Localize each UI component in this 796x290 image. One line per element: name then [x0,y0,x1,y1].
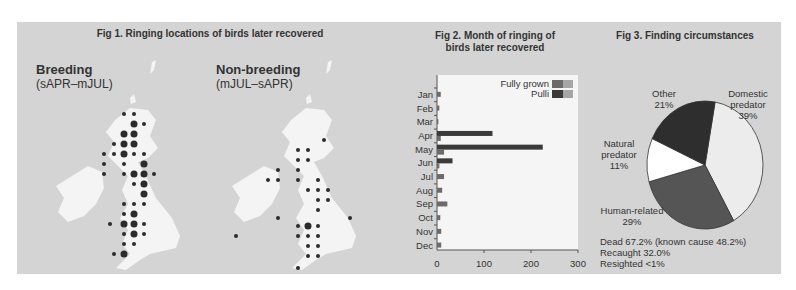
bar-pulli [437,131,492,136]
label-natural: Naturalpredator11% [594,138,644,171]
fig3-title: Fig 3. Finding circumstances [610,30,760,42]
xtick-0: 0 [434,258,439,269]
label-human: Human-related29% [592,205,672,227]
summary-dead: Dead 67.2% (known cause 48.2%) [600,236,746,247]
label-domestic: Domesticpredator39% [718,88,778,121]
summary-recaught: Recaught 32.0% [600,247,746,258]
bar-fully-grown [437,150,444,155]
fig1-title: Fig 1. Ringing locations of birds later … [80,28,340,40]
month-label: Jun [418,157,433,168]
nonbreeding-map [206,58,376,278]
bar-fully-grown [437,92,441,97]
month-label: Aug [416,185,433,196]
bar-fully-grown [437,163,439,168]
bar-fully-grown [437,106,439,111]
month-label: Nov [416,226,433,237]
month-label: Mar [417,116,433,127]
month-label: Sep [416,198,433,209]
legend-pulli: Pulli [531,88,549,99]
month-label: Jul [421,171,433,182]
recovery-summary: Dead 67.2% (known cause 48.2%) Recaught … [600,236,746,269]
plot-area [437,75,578,250]
xtick-200: 200 [523,258,539,269]
bar-fully-grown [437,243,441,248]
month-label: Jan [418,89,433,100]
bar-fully-grown [437,119,438,124]
xtick-300: 300 [570,258,586,269]
bar-fully-grown [437,136,441,141]
month-bar-chart: JanFebMarAprMayJunJulAugSepOctNovDec 0 1… [400,70,600,275]
bar-pulli [437,145,543,150]
bar-fully-grown [437,188,442,193]
breeding-map [30,58,200,278]
fig2-title-line1: Fig 2. Month of ringing of [425,30,565,42]
xtick-100: 100 [476,258,492,269]
month-label: Apr [418,130,433,141]
bar-fully-grown [437,174,444,179]
month-label: Oct [418,212,433,223]
label-other: Other21% [646,88,682,110]
fig2-title-line2: birds later recovered [425,42,565,54]
summary-resighted: Resighted <1% [600,258,746,269]
bar-fully-grown [437,215,440,220]
bar-fully-grown [437,229,441,234]
month-label: May [415,144,433,155]
month-label: Dec [416,240,433,251]
fig2-title: Fig 2. Month of ringing of birds later r… [425,30,565,54]
month-label: Feb [417,103,433,114]
bar-fully-grown [437,201,447,206]
bar-pulli [437,158,453,163]
